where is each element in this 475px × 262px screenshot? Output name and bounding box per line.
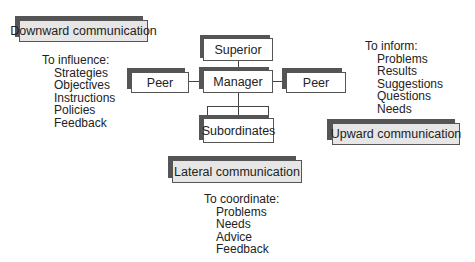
list-item: Objectives	[42, 79, 115, 92]
upward-heading: To inform:	[365, 40, 443, 53]
peer-left-node: Peer	[131, 72, 189, 93]
superior-node: Superior	[203, 38, 273, 61]
subordinates-label: Subordinates	[202, 124, 276, 138]
list-item: Results	[365, 65, 443, 78]
upward-communication-label: Upward communication	[331, 127, 462, 141]
downward-purpose-list: To influence: Strategies Objectives Inst…	[42, 54, 115, 130]
peer-left-label: Peer	[147, 76, 173, 90]
downward-communication-label: Downward communication	[10, 24, 157, 38]
upward-purpose-list: To inform: Problems Results Suggestions …	[365, 40, 443, 116]
list-item: Needs	[365, 103, 443, 116]
superior-label: Superior	[214, 43, 261, 57]
subordinates-node: Subordinates	[203, 118, 274, 143]
list-item: Feedback	[42, 117, 115, 130]
lateral-communication-box: Lateral communication	[172, 160, 302, 183]
lateral-communication-label: Lateral communication	[174, 165, 300, 179]
subordinates-bracket-top	[207, 106, 269, 107]
list-item: Needs	[204, 218, 279, 231]
peer-right-node: Peer	[286, 72, 346, 93]
downward-heading: To influence:	[42, 54, 115, 67]
lateral-heading: To coordinate:	[204, 193, 279, 206]
upward-communication-box: Upward communication	[332, 123, 460, 145]
manager-label: Manager	[213, 75, 262, 89]
downward-communication-box: Downward communication	[19, 20, 148, 42]
peer-right-label: Peer	[303, 76, 329, 90]
list-item: Feedback	[204, 243, 279, 256]
manager-node: Manager	[203, 70, 273, 93]
lateral-purpose-list: To coordinate: Problems Needs Advice Fee…	[204, 193, 279, 256]
